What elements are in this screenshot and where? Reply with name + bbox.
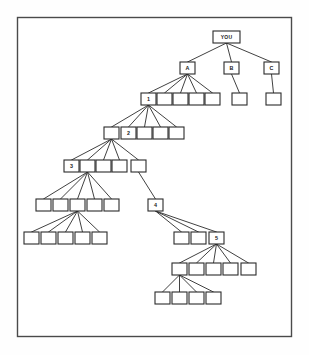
node-label: 2 <box>127 130 130 136</box>
node-box[interactable] <box>189 263 204 275</box>
node-l6b[interactable] <box>41 232 56 244</box>
node-box[interactable] <box>172 263 187 275</box>
node-l5d[interactable] <box>87 199 102 211</box>
node-label: B <box>229 65 233 71</box>
node-l6g[interactable] <box>191 232 206 244</box>
node-l7b[interactable] <box>189 263 204 275</box>
node-box[interactable] <box>36 199 51 211</box>
node-l4c[interactable] <box>96 160 111 172</box>
node-l6e[interactable] <box>92 232 107 244</box>
node-c[interactable]: C <box>264 62 279 74</box>
node-label: 4 <box>154 202 157 208</box>
tree-diagram: YOUABC12345 <box>0 0 309 355</box>
node-box[interactable] <box>232 93 247 105</box>
node-2[interactable]: 2 <box>121 127 136 139</box>
node-a2[interactable] <box>157 93 172 105</box>
node-l3b[interactable] <box>137 127 152 139</box>
node-p3[interactable] <box>80 160 95 172</box>
node-l8a[interactable] <box>155 292 170 304</box>
node-l5e[interactable] <box>104 199 119 211</box>
node-label: YOU <box>221 34 233 40</box>
node-box[interactable] <box>53 199 68 211</box>
node-l8d[interactable] <box>206 292 221 304</box>
node-box[interactable] <box>104 127 119 139</box>
node-4[interactable]: 4 <box>148 199 163 211</box>
node-l6d[interactable] <box>75 232 90 244</box>
node-5[interactable]: 5 <box>209 232 224 244</box>
node-box[interactable] <box>131 160 146 172</box>
node-l7c[interactable] <box>206 263 221 275</box>
node-l3d[interactable] <box>169 127 184 139</box>
node-box[interactable] <box>75 232 90 244</box>
node-box[interactable] <box>191 232 206 244</box>
node-a3[interactable] <box>173 93 188 105</box>
node-box[interactable] <box>96 160 111 172</box>
node-l7e[interactable] <box>241 263 256 275</box>
node-3[interactable]: 3 <box>64 160 79 172</box>
node-l6c[interactable] <box>58 232 73 244</box>
node-l8b[interactable] <box>172 292 187 304</box>
node-box[interactable] <box>70 199 85 211</box>
node-label: 1 <box>147 96 150 102</box>
node-box[interactable] <box>206 292 221 304</box>
node-box[interactable] <box>80 160 95 172</box>
node-box[interactable] <box>58 232 73 244</box>
node-box[interactable] <box>92 232 107 244</box>
node-l6a[interactable] <box>24 232 39 244</box>
node-box[interactable] <box>104 199 119 211</box>
node-l4d[interactable] <box>112 160 127 172</box>
node-box[interactable] <box>172 292 187 304</box>
node-box[interactable] <box>241 263 256 275</box>
node-box[interactable] <box>137 127 152 139</box>
node-l4e[interactable] <box>131 160 146 172</box>
node-label: C <box>269 65 273 71</box>
node-box[interactable] <box>223 263 238 275</box>
node-box[interactable] <box>157 93 172 105</box>
node-c1[interactable] <box>266 93 281 105</box>
diagram-border-frame <box>18 18 292 337</box>
node-l3c[interactable] <box>153 127 168 139</box>
diagram-root: YOUABC12345 <box>0 0 309 355</box>
node-label: 5 <box>215 235 218 241</box>
node-box[interactable] <box>153 127 168 139</box>
node-a[interactable]: A <box>180 62 195 74</box>
node-1[interactable]: 1 <box>141 93 156 105</box>
node-a4[interactable] <box>189 93 204 105</box>
node-label: A <box>185 65 189 71</box>
node-box[interactable] <box>189 93 204 105</box>
node-box[interactable] <box>24 232 39 244</box>
node-you[interactable]: YOU <box>213 31 240 43</box>
node-box[interactable] <box>266 93 281 105</box>
node-box[interactable] <box>206 263 221 275</box>
node-box[interactable] <box>112 160 127 172</box>
node-box[interactable] <box>155 292 170 304</box>
node-box[interactable] <box>87 199 102 211</box>
node-l5a[interactable] <box>36 199 51 211</box>
node-box[interactable] <box>41 232 56 244</box>
node-l8c[interactable] <box>189 292 204 304</box>
node-box[interactable] <box>189 292 204 304</box>
node-p2[interactable] <box>104 127 119 139</box>
node-b[interactable]: B <box>224 62 239 74</box>
node-label: 3 <box>70 163 73 169</box>
node-l6f[interactable] <box>174 232 189 244</box>
node-l5b[interactable] <box>53 199 68 211</box>
node-box[interactable] <box>169 127 184 139</box>
node-box[interactable] <box>173 93 188 105</box>
node-p7[interactable] <box>172 263 187 275</box>
node-l7d[interactable] <box>223 263 238 275</box>
node-p5[interactable] <box>70 199 85 211</box>
node-a5[interactable] <box>205 93 220 105</box>
node-box[interactable] <box>174 232 189 244</box>
node-box[interactable] <box>205 93 220 105</box>
node-b1[interactable] <box>232 93 247 105</box>
